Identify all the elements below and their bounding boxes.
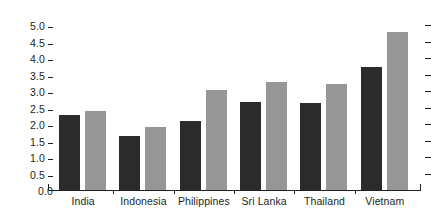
bar[interactable] <box>85 111 106 190</box>
y-axis-tick: 4.0 <box>30 52 53 64</box>
right-axis-tick-mark <box>425 25 431 26</box>
y-axis-tick-label: 4.0 <box>30 53 45 65</box>
x-axis-tick-mark <box>113 190 114 194</box>
bar[interactable] <box>59 115 80 190</box>
bar-group <box>113 0 173 190</box>
right-axis-tick-mark <box>425 91 431 92</box>
x-axis-left-cap <box>48 184 49 191</box>
y-axis: 0.00.51.01.52.02.53.03.54.04.55.0 <box>0 0 53 222</box>
right-axis-tick-mark <box>425 141 431 142</box>
bar[interactable] <box>361 67 382 190</box>
bar[interactable] <box>240 102 261 190</box>
x-axis-right-cap <box>420 184 421 191</box>
bar-group <box>174 0 234 190</box>
right-axis-tick-mark <box>425 157 431 158</box>
y-axis-tick-label: 1.5 <box>30 136 45 148</box>
bar[interactable] <box>206 90 227 190</box>
y-axis-tick-label: 1.0 <box>30 152 45 164</box>
right-axis-tick-mark <box>425 174 431 175</box>
y-axis-tick: 2.0 <box>30 118 53 130</box>
y-axis-tick: 4.5 <box>30 36 53 48</box>
y-axis-tick: 3.0 <box>30 85 53 97</box>
bar-groups <box>53 0 415 190</box>
y-axis-tick-label: 2.0 <box>30 119 45 131</box>
bar[interactable] <box>387 32 408 190</box>
x-axis-tick-mark <box>355 190 356 194</box>
y-axis-tick-label: 4.5 <box>30 37 45 49</box>
bar[interactable] <box>119 136 140 190</box>
right-axis-tick-mark <box>425 58 431 59</box>
y-axis-tick: 5.0 <box>30 19 53 31</box>
right-axis-tick-mark <box>425 108 431 109</box>
y-axis-tick: 0.5 <box>30 168 53 180</box>
x-axis-tick-mark <box>234 190 235 194</box>
y-axis-tick-label: 3.5 <box>30 70 45 82</box>
y-axis-tick: 2.5 <box>30 102 53 114</box>
y-axis-tick: 1.5 <box>30 135 53 147</box>
bar-group <box>294 0 354 190</box>
y-axis-tick-label: 5.0 <box>30 20 45 32</box>
y-axis-tick: 1.0 <box>30 151 53 163</box>
y-axis-tick-label: 3.0 <box>30 86 45 98</box>
x-axis-tick-mark <box>174 190 175 194</box>
y-axis-tick: 3.5 <box>30 69 53 81</box>
bar[interactable] <box>300 103 321 190</box>
bar[interactable] <box>266 82 287 190</box>
bar[interactable] <box>326 84 347 190</box>
bar-group <box>234 0 294 190</box>
bar[interactable] <box>180 121 201 190</box>
right-axis-tick-mark <box>425 75 431 76</box>
bar-group <box>355 0 415 190</box>
x-axis-tick-mark <box>294 190 295 194</box>
bar[interactable] <box>145 127 166 190</box>
bar-group <box>53 0 113 190</box>
bar-chart: 0.00.51.01.52.02.53.03.54.04.55.0 IndiaI… <box>0 0 448 222</box>
x-axis-category-label: Vietnam <box>345 195 425 207</box>
right-axis-tick-mark <box>425 124 431 125</box>
y-axis-tick-label: 2.5 <box>30 103 45 115</box>
x-axis-category-labels: IndiaIndonesiaPhilippinesSri LankaThaila… <box>53 195 415 215</box>
right-axis-tick-mark <box>425 42 431 43</box>
y-axis-tick-label: 0.5 <box>30 169 45 181</box>
